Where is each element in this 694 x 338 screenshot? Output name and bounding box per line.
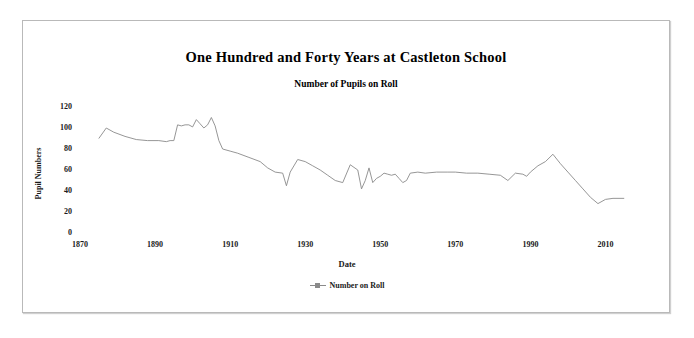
legend-label: Number on Roll xyxy=(330,281,385,290)
chart-subtitle: Number of Pupils on Roll xyxy=(23,79,669,89)
x-tick-label: 1990 xyxy=(510,240,550,249)
legend-marker-icon xyxy=(310,282,326,289)
x-tick-label: 1870 xyxy=(60,240,100,249)
chart-title: One Hundred and Forty Years at Castleton… xyxy=(23,49,669,66)
x-tick-label: 1910 xyxy=(210,240,250,249)
y-tick-label: 120 xyxy=(46,102,72,111)
y-tick-label: 80 xyxy=(46,144,72,153)
y-tick-label: 60 xyxy=(46,165,72,174)
x-tick-label: 2010 xyxy=(585,240,625,249)
y-tick-label: 100 xyxy=(46,123,72,132)
y-tick-label: 40 xyxy=(46,186,72,195)
y-tick-label: 0 xyxy=(46,228,72,237)
x-tick-label: 1970 xyxy=(435,240,475,249)
x-axis-title: Date xyxy=(23,259,671,269)
chart-legend: Number on Roll xyxy=(23,281,671,290)
x-tick-label: 1930 xyxy=(285,240,325,249)
y-tick-label: 20 xyxy=(46,207,72,216)
chart-frame: One Hundred and Forty Years at Castleton… xyxy=(22,20,670,313)
x-tick-label: 1950 xyxy=(360,240,400,249)
x-tick-label: 1890 xyxy=(135,240,175,249)
series-polyline xyxy=(99,118,624,204)
y-axis-title: Pupil Numbers xyxy=(34,139,43,209)
